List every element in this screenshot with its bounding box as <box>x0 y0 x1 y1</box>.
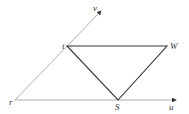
point-w-label: W <box>170 42 178 51</box>
diagram-canvas <box>0 0 189 114</box>
v-axis <box>15 11 101 100</box>
u-axis-label: u <box>169 103 174 112</box>
triangle-tsw <box>67 46 167 100</box>
uv-plane-diagram: v u r t W S <box>0 0 189 114</box>
v-axis-label: v <box>93 4 97 13</box>
point-r-label: r <box>9 98 13 107</box>
point-s-label: S <box>115 103 120 112</box>
point-t-label: t <box>62 42 65 51</box>
